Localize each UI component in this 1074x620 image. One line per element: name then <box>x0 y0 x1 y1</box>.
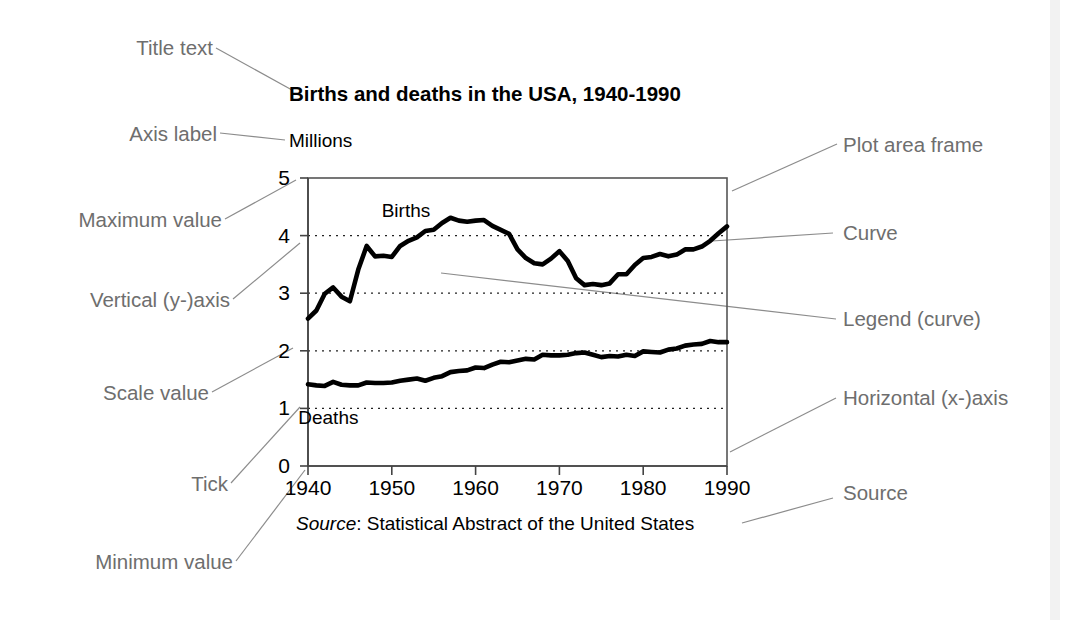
annotation-vertical-y-axis: Vertical (y-)axis <box>0 290 234 311</box>
y-tick-label-0: 0 <box>264 455 290 476</box>
leader-title-text <box>216 48 292 90</box>
figure-canvas: Births and deaths in the USA, 1940-1990 … <box>0 0 1074 620</box>
curve-births <box>308 218 727 319</box>
annotation-plot-area-frame: Plot area frame <box>843 135 983 156</box>
source-text: Statistical Abstract of the United State… <box>367 513 694 534</box>
y-tick-label-5: 5 <box>264 167 290 188</box>
x-tick-label-1970: 1970 <box>519 477 599 498</box>
annotation-curve: Curve <box>843 223 898 244</box>
page-title: Births and deaths in the USA, 1940-1990 <box>289 82 681 106</box>
y-tick-label-1: 1 <box>264 397 290 418</box>
y-tick-label-4: 4 <box>264 225 290 246</box>
series-label-deaths: Deaths <box>298 407 358 429</box>
data-curves <box>308 218 727 386</box>
leader-legend-curve <box>441 273 836 319</box>
y-tick-label-2: 2 <box>264 340 290 361</box>
source-note: Source: Statistical Abstract of the Unit… <box>296 513 694 535</box>
annotation-minimum-value: Minimum value <box>0 552 237 573</box>
y-axis-label: Millions <box>289 130 352 152</box>
leader-axis-label <box>220 133 285 140</box>
x-tick-label-1960: 1960 <box>436 477 516 498</box>
x-tick-label-1950: 1950 <box>352 477 432 498</box>
annotation-source: Source <box>843 483 908 504</box>
y-tick-label-3: 3 <box>264 282 290 303</box>
annotation-axis-label: Axis label <box>0 124 221 145</box>
series-label-births: Births <box>382 200 431 222</box>
x-tick-label-1940: 1940 <box>268 477 348 498</box>
leader-curve <box>712 233 833 241</box>
annotation-title-text: Title text <box>0 38 217 59</box>
annotation-horizontal-x-axis: Horizontal (x-)axis <box>843 388 1008 409</box>
plot-area-frame <box>308 178 727 466</box>
leader-horizontal-x-axis <box>730 398 836 452</box>
leader-plot-area-frame <box>732 144 837 191</box>
x-tick-label-1980: 1980 <box>603 477 683 498</box>
annotation-scale-value: Scale value <box>0 383 213 404</box>
leader-source <box>742 498 833 523</box>
annotation-tick: Tick <box>0 474 232 495</box>
x-tick-label-1990: 1990 <box>687 477 767 498</box>
annotation-legend-curve: Legend (curve) <box>843 309 981 330</box>
curve-deaths <box>308 341 727 386</box>
annotation-maximum-value: Maximum value <box>0 210 226 231</box>
source-prefix: Source <box>296 513 356 534</box>
source-separator: : <box>356 513 367 534</box>
x-axis-ticks <box>308 466 727 475</box>
